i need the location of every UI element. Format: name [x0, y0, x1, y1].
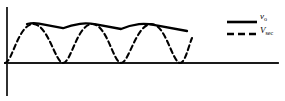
- secondary-voltage-curve: [5, 24, 192, 63]
- waveform-figure: vo Vsec: [0, 0, 285, 101]
- legend-entry-secondary-voltage: Vsec: [226, 26, 284, 40]
- output-voltage-curve: [27, 23, 187, 31]
- legend-dashed-line-swatch: [226, 26, 258, 40]
- legend-solid-line-swatch: [226, 14, 258, 26]
- legend-entry-output-voltage: vo: [226, 12, 284, 26]
- legend-label-output-voltage: vo: [260, 10, 267, 23]
- legend: vo Vsec: [226, 12, 284, 42]
- scan-artifact: [2, 0, 28, 7]
- legend-label-secondary-voltage: Vsec: [260, 24, 273, 37]
